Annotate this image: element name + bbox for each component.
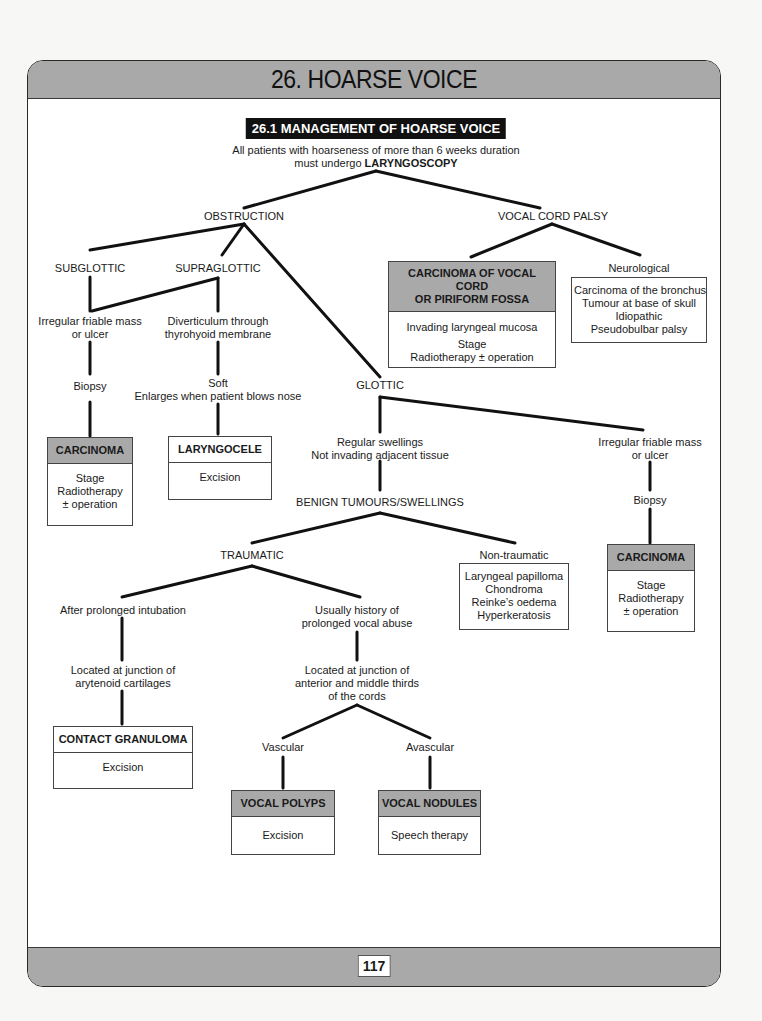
node-subglottic: SUBGLOTTIC [55, 262, 125, 275]
box-body: Stage Radiotherapy ± operation [608, 571, 694, 626]
text-line: Stage [610, 579, 692, 592]
node-vascular: Vascular [262, 741, 304, 754]
box-neurological-causes: Carcinoma of the bronchus Tumour at base… [571, 277, 707, 343]
node-non-traumatic: Non-traumatic [479, 549, 548, 562]
node-benign: BENIGN TUMOURS/SWELLINGS [296, 496, 464, 509]
box-title: VOCAL NODULES [379, 791, 480, 817]
text-line: Stage [391, 338, 553, 351]
text-line: Excision [56, 761, 190, 774]
text-line: Tumour at base of skull [574, 297, 704, 310]
box-body: Carcinoma of the bronchus Tumour at base… [572, 278, 706, 342]
text-line: prolonged vocal abuse [302, 617, 413, 630]
chapter-header: 26. HOARSE VOICE [28, 61, 720, 99]
text-line: Irregular friable mass [598, 436, 701, 449]
text-line: Excision [234, 829, 332, 842]
text-line: Stage [50, 472, 130, 485]
text-line: Not invading adjacent tissue [311, 449, 449, 462]
box-vocal-polyps: VOCAL POLYPS Excision [231, 790, 335, 855]
node-glottic-mass: Irregular friable mass or ulcer [598, 436, 701, 462]
text-line: Located at junction of [71, 664, 176, 677]
box-subglottic-carcinoma: CARCINOMA Stage Radiotherapy ± operation [47, 437, 133, 526]
section-title: 26.1 MANAGEMENT OF HOARSE VOICE [246, 118, 506, 139]
box-body: Excision [54, 753, 192, 782]
node-vocal-cord-palsy: VOCAL CORD PALSY [498, 210, 608, 223]
node-soft: Soft Enlarges when patient blows nose [135, 377, 302, 403]
text-line: Carcinoma of the bronchus [574, 284, 704, 297]
text-line: Pseudobulbar palsy [574, 323, 704, 336]
box-title: VOCAL POLYPS [232, 791, 334, 817]
node-glottic: GLOTTIC [356, 379, 404, 392]
box-title: CARCINOMA [48, 438, 132, 464]
box-title: LARYNGOCELE [169, 437, 271, 463]
node-subglottic-mass: Irregular friable mass or ulcer [38, 315, 141, 341]
text-line: Radiotherapy [610, 592, 692, 605]
intro-line-1: All patients with hoarseness of more tha… [232, 144, 519, 157]
node-obstruction: OBSTRUCTION [204, 210, 284, 223]
box-title: CARCINOMA OF VOCAL CORD OR PIRIFORM FOSS… [389, 262, 555, 312]
box-body: Excision [232, 817, 334, 850]
node-avascular: Avascular [406, 741, 454, 754]
node-intubation: After prolonged intubation [60, 604, 186, 617]
text-line: Excision [171, 471, 269, 484]
text-line: thyrohyoid membrane [165, 328, 271, 341]
node-regular-swellings: Regular swellings Not invading adjacent … [311, 436, 449, 462]
node-vocal-abuse: Usually history of prolonged vocal abuse [302, 604, 413, 630]
box-body: Excision [169, 463, 271, 492]
node-subglottic-biopsy: Biopsy [73, 380, 106, 393]
page-footer: 117 [28, 947, 720, 986]
text-line: anterior and middle thirds [295, 677, 419, 690]
text-line: Radiotherapy [50, 485, 130, 498]
text-line: CARCINOMA OF VOCAL CORD [391, 267, 553, 293]
page-number: 117 [358, 955, 391, 977]
text-line: or ulcer [598, 449, 701, 462]
intro-text: All patients with hoarseness of more tha… [232, 144, 519, 170]
text-line: Reinke’s oedema [462, 596, 566, 609]
node-traumatic: TRAUMATIC [220, 549, 283, 562]
box-glottic-carcinoma: CARCINOMA Stage Radiotherapy ± operation [607, 544, 695, 632]
node-supraglottic: SUPRAGLOTTIC [175, 262, 261, 275]
node-arytenoid: Located at junction of arytenoid cartila… [71, 664, 176, 690]
node-diverticulum: Diverticulum through thyrohyoid membrane [165, 315, 271, 341]
box-title: CARCINOMA [608, 545, 694, 571]
text-line: Chondroma [462, 583, 566, 596]
text-line: ± operation [610, 605, 692, 618]
box-contact-granuloma: CONTACT GRANULOMA Excision [53, 726, 193, 789]
text-line: Speech therapy [381, 829, 478, 842]
text-line: Radiotherapy ± operation [391, 351, 553, 364]
text-line: arytenoid cartilages [71, 677, 176, 690]
text-line: OR PIRIFORM FOSSA [391, 293, 553, 306]
text-line: Irregular friable mass [38, 315, 141, 328]
text-line: or ulcer [38, 328, 141, 341]
node-neurological: Neurological [608, 262, 669, 275]
intro-prefix: must undergo [294, 157, 364, 169]
box-body: Speech therapy [379, 817, 480, 850]
box-title: CONTACT GRANULOMA [54, 727, 192, 753]
text-line: Soft [135, 377, 302, 390]
text-line: Regular swellings [311, 436, 449, 449]
chapter-title: 26. HOARSE VOICE [271, 65, 477, 94]
text-line: ± operation [50, 498, 130, 511]
laryngoscopy-keyword: LARYNGOSCOPY [365, 157, 458, 169]
text-line: of the cords [295, 690, 419, 703]
box-body: Laryngeal papilloma Chondroma Reinke’s o… [460, 564, 568, 628]
box-carcinoma-vocal-cord: CARCINOMA OF VOCAL CORD OR PIRIFORM FOSS… [388, 261, 556, 368]
text-line: Laryngeal papilloma [462, 570, 566, 583]
text-line: Idiopathic [574, 310, 704, 323]
node-anterior-middle: Located at junction of anterior and midd… [295, 664, 419, 703]
box-body: Stage Radiotherapy ± operation [48, 464, 132, 519]
box-non-traumatic-list: Laryngeal papilloma Chondroma Reinke’s o… [459, 563, 569, 630]
text-line: Diverticulum through [165, 315, 271, 328]
text-line: Located at junction of [295, 664, 419, 677]
text-line: Hyperkeratosis [462, 609, 566, 622]
box-body: Invading laryngeal mucosa Stage Radiothe… [389, 312, 555, 372]
text-line: Invading laryngeal mucosa [391, 321, 553, 334]
intro-line-2: must undergo LARYNGOSCOPY [232, 157, 519, 170]
text-line: Usually history of [302, 604, 413, 617]
box-vocal-nodules: VOCAL NODULES Speech therapy [378, 790, 481, 855]
text-line: Enlarges when patient blows nose [135, 390, 302, 403]
box-laryngocele: LARYNGOCELE Excision [168, 436, 272, 500]
node-glottic-biopsy: Biopsy [633, 494, 666, 507]
